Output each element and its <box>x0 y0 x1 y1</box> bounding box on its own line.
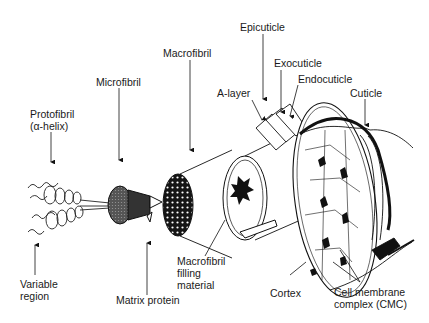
label-endocuticle: Endocuticle <box>298 73 352 85</box>
microfibril-shape <box>108 186 162 224</box>
label-epicuticle: Epicuticle <box>240 21 285 33</box>
label-protofibril: Protofibril (α-helix) <box>30 108 74 132</box>
label-filling-line1: Macrofibril <box>177 255 225 267</box>
label-matrix-protein: Matrix protein <box>116 294 180 306</box>
label-microfibril: Microfibril <box>96 76 141 88</box>
label-a-layer: A-layer <box>217 87 250 99</box>
a-layer-arrow <box>252 100 262 120</box>
label-cmc-line1: Cell membrane <box>334 286 407 298</box>
label-exocuticle: Exocuticle <box>274 57 322 69</box>
label-variable-line1: Variable <box>20 278 58 290</box>
variable-region-strands <box>28 183 58 235</box>
label-protofibril-line2: (α-helix) <box>30 120 74 132</box>
label-cuticle: Cuticle <box>350 87 382 99</box>
label-protofibril-line1: Protofibril <box>30 108 74 120</box>
label-filling-line3: material <box>177 279 225 291</box>
label-variable-line2: region <box>20 290 58 302</box>
label-cortex: Cortex <box>270 287 301 299</box>
label-macrofibril-filling: Macrofibril filling material <box>177 255 225 291</box>
cortex-leader <box>290 262 306 275</box>
cell-cross-section <box>223 156 277 240</box>
label-variable-region: Variable region <box>20 278 58 302</box>
label-macrofibril: Macrofibril <box>163 47 211 59</box>
label-filling-line2: filling <box>177 267 225 279</box>
hair-structure-diagram: Protofibril (α-helix) Microfibril Macrof… <box>0 0 429 323</box>
protofibril-coils <box>44 186 110 229</box>
macrofibril-cross-section <box>163 174 193 236</box>
label-cmc-line2: complex (CMC) <box>334 298 407 310</box>
label-cmc: Cell membrane complex (CMC) <box>334 286 407 310</box>
